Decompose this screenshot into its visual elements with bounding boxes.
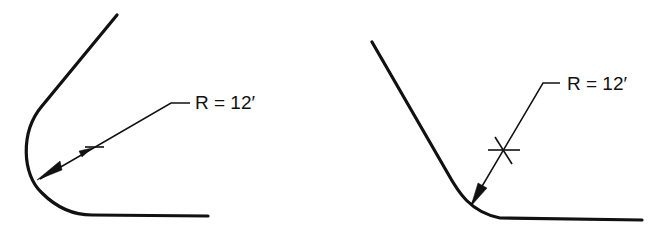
left-curve-path — [26, 15, 208, 216]
right-curve-path — [372, 42, 642, 220]
left-radius-label: R = 12′ — [195, 93, 255, 112]
left-arrowhead-icon — [37, 161, 62, 180]
right-figure — [372, 42, 642, 220]
left-figure — [26, 15, 208, 216]
right-radius-label: R = 12′ — [567, 74, 627, 93]
right-arrowhead-icon — [471, 183, 487, 206]
drawing-canvas — [0, 0, 665, 229]
left-radius-leader — [40, 103, 190, 179]
